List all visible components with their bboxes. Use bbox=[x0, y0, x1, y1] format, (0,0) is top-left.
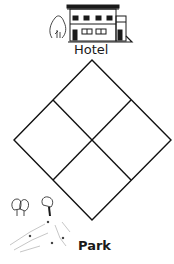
grid-diamond bbox=[14, 60, 171, 220]
diagram-canvas bbox=[0, 0, 174, 264]
hotel-label: Hotel bbox=[74, 43, 108, 56]
park-trees-icon bbox=[10, 197, 70, 252]
park-label: Park bbox=[78, 239, 111, 252]
hotel-building-icon bbox=[50, 5, 132, 42]
